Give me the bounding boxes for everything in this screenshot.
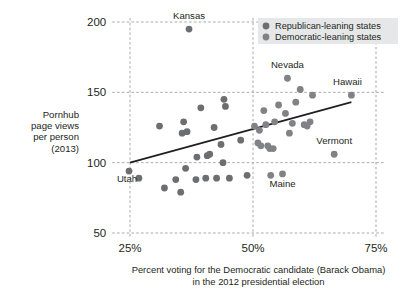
- data-point: [307, 118, 314, 125]
- data-point: [309, 92, 316, 99]
- data-point: [348, 92, 355, 99]
- data-point: [156, 123, 163, 130]
- y-axis-title-line: (2013): [51, 143, 79, 154]
- point-label: Nevada: [271, 59, 305, 70]
- point-label: Kansas: [173, 10, 205, 21]
- y-axis-tick-labels: 50100150200: [87, 16, 106, 239]
- legend-label: Republican-leaning states: [275, 21, 381, 31]
- data-point: [226, 175, 233, 182]
- data-point: [197, 104, 204, 111]
- data-point: [182, 165, 189, 172]
- data-point: [289, 120, 296, 127]
- data-point: [237, 137, 244, 144]
- x-axis-title: Percent voting for the Democratic candid…: [132, 264, 386, 287]
- data-point: [275, 102, 282, 109]
- legend-label: Democratic-leaning states: [275, 32, 382, 42]
- data-point: [172, 176, 179, 183]
- x-tick-label: 25%: [118, 242, 141, 254]
- x-axis-tick-labels: 25%50%75%: [118, 242, 387, 254]
- chart-legend: Republican-leaning statesDemocratic-lean…: [258, 18, 398, 44]
- y-axis-title-line: per person: [33, 131, 79, 142]
- data-point: [284, 75, 291, 82]
- data-point: [279, 171, 286, 178]
- data-point: [180, 118, 187, 125]
- y-tick-label: 200: [87, 16, 106, 28]
- data-point: [292, 99, 299, 106]
- data-point: [262, 121, 269, 128]
- data-point: [218, 141, 225, 148]
- y-axis-title-line: page views: [31, 120, 79, 131]
- legend-marker-icon: [263, 34, 270, 41]
- data-point: [260, 107, 267, 114]
- data-point: [282, 110, 289, 117]
- data-point: [270, 145, 277, 152]
- legend-marker-icon: [263, 23, 270, 30]
- data-point: [206, 151, 213, 158]
- point-label: Maine: [269, 178, 295, 189]
- point-label: Vermont: [316, 135, 352, 146]
- data-point: [184, 128, 191, 135]
- x-tick-label: 50%: [241, 242, 264, 254]
- data-point: [211, 124, 218, 131]
- y-tick-label: 100: [87, 157, 106, 169]
- point-label: Hawaii: [333, 76, 362, 87]
- y-axis-title-line: Pornhub: [43, 109, 79, 120]
- data-point: [331, 151, 338, 158]
- data-point: [202, 175, 209, 182]
- data-point: [256, 127, 263, 134]
- data-point: [194, 154, 201, 161]
- chart-figure: 50100150200 25%50%75% KansasNevadaHawaii…: [0, 0, 405, 299]
- data-point: [161, 185, 168, 192]
- data-point: [271, 118, 278, 125]
- x-axis-title-line: Percent voting for the Democratic candid…: [132, 264, 386, 275]
- data-point: [286, 130, 293, 137]
- regression-line: [130, 102, 351, 162]
- data-point: [220, 159, 227, 166]
- y-axis-title: Pornhubpage viewsper person(2013): [31, 109, 79, 154]
- point-label: Utah: [117, 173, 137, 184]
- data-point: [193, 176, 200, 183]
- x-tick-label: 75%: [364, 242, 387, 254]
- gridlines: [112, 18, 386, 238]
- data-point: [177, 189, 184, 196]
- data-point: [222, 103, 229, 110]
- data-point: [213, 175, 220, 182]
- data-point: [221, 96, 228, 103]
- scatter-plot-svg: 50100150200 25%50%75% KansasNevadaHawaii…: [0, 0, 405, 299]
- data-point: [244, 172, 251, 179]
- y-tick-label: 150: [87, 86, 106, 98]
- data-point: [257, 142, 264, 149]
- x-axis-title-line: in the 2012 presidential election: [193, 276, 325, 287]
- data-point: [297, 86, 304, 93]
- trend-line: [130, 102, 351, 162]
- data-point: [186, 26, 193, 33]
- y-tick-label: 50: [93, 227, 106, 239]
